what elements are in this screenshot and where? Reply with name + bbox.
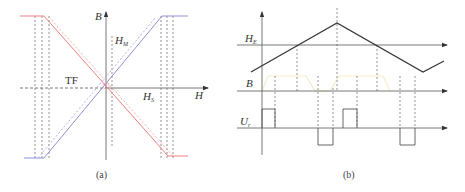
ur-label: Ur bbox=[240, 115, 251, 128]
blue-bh-curve-dashed bbox=[38, 17, 156, 158]
b-axis-label: B bbox=[95, 10, 102, 22]
figure: B H HM HS TF (a) bbox=[0, 0, 465, 192]
he-label: HE bbox=[244, 32, 257, 45]
hs-label-sub: S bbox=[151, 97, 154, 103]
h-axis-label: H bbox=[194, 89, 204, 101]
hs-label: HS bbox=[142, 90, 154, 103]
caption-a: (a) bbox=[96, 169, 107, 181]
tf-label: TF bbox=[65, 74, 78, 86]
panel-b: HE B Ur (b) bbox=[237, 8, 447, 181]
ur-pulse-negative bbox=[400, 128, 415, 145]
red-bh-curve-dashed bbox=[49, 17, 173, 156]
he-triangle-wave bbox=[251, 23, 444, 72]
b-waveform bbox=[262, 76, 390, 91]
b-label: B bbox=[246, 77, 253, 89]
saturation-dashed-lines-left bbox=[35, 16, 49, 158]
hm-label-sub: M bbox=[122, 41, 129, 47]
ur-pulse-negative bbox=[318, 128, 333, 145]
ur-pulse-positive bbox=[262, 109, 275, 128]
ur-label-sub: r bbox=[248, 122, 251, 128]
hm-label: HM bbox=[114, 34, 129, 47]
panel-a: B H HM HS TF (a) bbox=[20, 10, 208, 181]
he-label-sub: E bbox=[252, 39, 257, 45]
caption-b: (b) bbox=[343, 169, 355, 181]
saturation-dashed-lines-right bbox=[161, 16, 173, 158]
timing-dashed-lines bbox=[275, 8, 415, 128]
ur-pulse-positive bbox=[343, 109, 357, 128]
